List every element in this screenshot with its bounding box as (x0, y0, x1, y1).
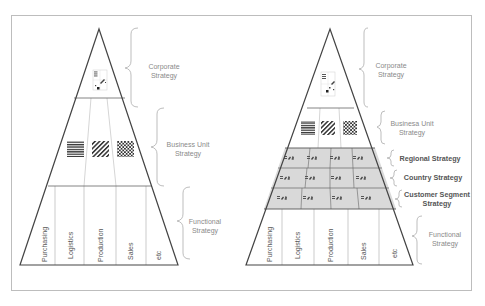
right-label-country: Country Strategy (398, 173, 468, 182)
right-function-production: Production (327, 229, 334, 262)
left-label-business-unit: Business Unit Strategy (158, 140, 218, 158)
label-line: Functional (420, 230, 470, 239)
label-line: Country Strategy (398, 173, 468, 182)
label-line: Corporate (366, 61, 416, 70)
label-line: Customer Segment (403, 190, 471, 199)
label-line: Strategy (180, 226, 230, 235)
checkerboard-icon (117, 141, 134, 157)
checkerboard-icon (343, 121, 357, 135)
corporate-pattern-icon (93, 70, 107, 90)
left-function-sales: Sales (127, 242, 134, 260)
left-label-functional: Functional Strategy (180, 217, 230, 235)
left-function-purchasing: Purchasing (41, 227, 48, 262)
left-function-logistics: Logistics (67, 232, 74, 259)
left-function-etc: etc (155, 251, 162, 260)
right-label-regional: Regional Strategy (395, 154, 465, 163)
right-label-business-unit: Businesa Unit Strategy (382, 119, 442, 137)
pyramids-canvas (0, 0, 485, 306)
right-function-purchasing: Purchasing (266, 227, 273, 262)
label-line: Regional Strategy (395, 154, 465, 163)
left-function-production: Production (97, 229, 104, 262)
right-function-sales: Sales (360, 242, 367, 260)
label-line: Strategy (403, 199, 471, 208)
diagonal-stripes-icon (321, 121, 335, 135)
corporate-pattern-icon (321, 72, 335, 96)
right-function-logistics: Logistics (294, 232, 301, 259)
right-label-functional: Functional Strategy (420, 230, 470, 248)
right-label-customer-segment: Customer Segment Strategy (403, 190, 471, 208)
label-line: Businesa Unit (382, 119, 442, 128)
label-line: Strategy (382, 128, 442, 137)
label-line: Functional (180, 217, 230, 226)
label-line: Strategy (139, 71, 189, 80)
horizontal-stripes-icon (301, 121, 315, 135)
label-line: Strategy (158, 149, 218, 158)
right-label-corporate: Corporate Strategy (366, 61, 416, 79)
horizontal-stripes-icon (67, 141, 84, 157)
left-label-corporate: Corporate Strategy (139, 62, 189, 80)
label-line: Strategy (366, 70, 416, 79)
label-line: Business Unit (158, 140, 218, 149)
diagonal-stripes-icon (92, 141, 109, 157)
label-line: Corporate (139, 62, 189, 71)
right-function-etc: etc (391, 249, 398, 258)
label-line: Strategy (420, 239, 470, 248)
